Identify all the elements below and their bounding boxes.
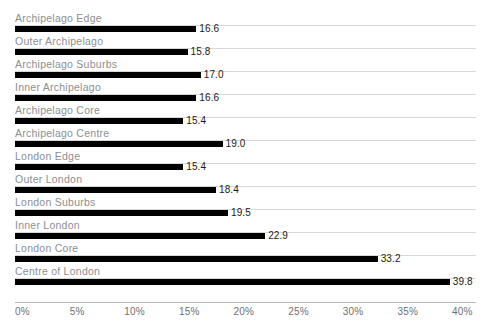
bar-row: Archipelago Edge16.6 [0, 14, 484, 37]
category-label: Centre of London [15, 265, 100, 277]
bar-row: Inner London22.9 [0, 221, 484, 244]
bar [15, 72, 201, 78]
category-label: Archipelago Core [15, 104, 100, 116]
bar-row: London Core33.2 [0, 244, 484, 267]
bar-value-label: 22.9 [268, 230, 288, 241]
x-tick-label: 5% [70, 306, 85, 318]
bar-row: Archipelago Centre19.0 [0, 129, 484, 152]
category-label: Archipelago Edge [15, 12, 102, 24]
x-tick-label: 0% [15, 306, 30, 318]
bar-chart: Archipelago Edge16.6Outer Archipelago15.… [0, 0, 484, 330]
bar-value-label: 15.4 [186, 161, 206, 172]
x-tick-label: 10% [124, 306, 145, 318]
x-axis-line [15, 302, 476, 303]
bar [15, 26, 196, 32]
bar-row: Inner Archipelago16.6 [0, 83, 484, 106]
bar-value-label: 19.0 [226, 138, 246, 149]
bar-row: Archipelago Suburbs17.0 [0, 60, 484, 83]
bar-row: London Edge15.4 [0, 152, 484, 175]
bar-row: Centre of London39.8 [0, 267, 484, 290]
bar [15, 279, 450, 285]
bar [15, 187, 216, 193]
x-tick-label: 20% [234, 306, 255, 318]
bar-value-label: 16.6 [199, 23, 219, 34]
bar [15, 233, 265, 239]
bar-value-label: 15.4 [186, 115, 206, 126]
bar-value-label: 15.8 [191, 46, 211, 57]
category-label: Outer London [15, 173, 82, 185]
bar [15, 164, 183, 170]
bar [15, 210, 228, 216]
bar [15, 49, 188, 55]
bar-value-label: 19.5 [231, 207, 251, 218]
x-tick-label: 15% [179, 306, 200, 318]
category-label: Archipelago Suburbs [15, 58, 117, 70]
bar-value-label: 16.6 [199, 92, 219, 103]
bar [15, 256, 378, 262]
plot-area: Archipelago Edge16.6Outer Archipelago15.… [0, 14, 484, 296]
category-label: Archipelago Centre [15, 127, 109, 139]
bar-value-label: 39.8 [453, 276, 473, 287]
bar-row: London Suburbs19.5 [0, 198, 484, 221]
bar-row: Archipelago Core15.4 [0, 106, 484, 129]
bar [15, 141, 223, 147]
category-label: Outer Archipelago [15, 35, 103, 47]
category-label: London Edge [15, 150, 80, 162]
x-tick-label: 35% [397, 306, 418, 318]
bar-row: Outer Archipelago15.8 [0, 37, 484, 60]
category-label: London Suburbs [15, 196, 96, 208]
category-label: Inner Archipelago [15, 81, 101, 93]
bar [15, 95, 196, 101]
x-tick-label: 30% [343, 306, 364, 318]
chart-title [15, 0, 455, 3]
bar-value-label: 17.0 [204, 69, 224, 80]
x-tick-label: 25% [288, 306, 309, 318]
bar-value-label: 18.4 [219, 184, 239, 195]
bar-value-label: 33.2 [381, 253, 401, 264]
category-label: London Core [15, 242, 78, 254]
category-label: Inner London [15, 219, 80, 231]
bar [15, 118, 183, 124]
x-tick-label: 40% [452, 306, 473, 318]
bar-row: Outer London18.4 [0, 175, 484, 198]
